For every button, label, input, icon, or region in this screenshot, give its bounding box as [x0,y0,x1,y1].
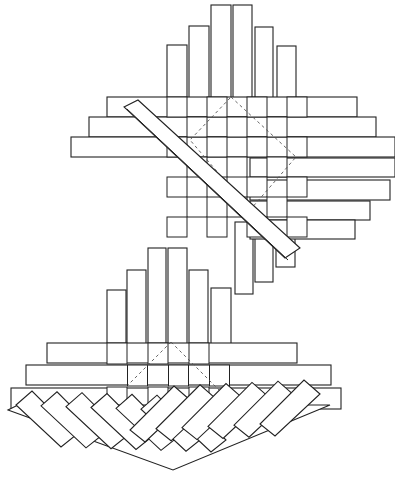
weave-cell [148,343,168,364]
horizontal-strip [71,137,395,157]
weave-cell [207,217,227,237]
weave-cell [287,137,307,157]
weave-cell [287,177,307,197]
basket-weave-diagram [0,0,395,481]
weave-cell [167,177,187,197]
lower-weave-illustration [8,248,341,470]
weave-cell [267,157,287,177]
weave-cell [107,343,127,364]
weave-cell [210,365,230,386]
vertical-strip [127,270,146,350]
weave-cell [247,137,267,157]
weave-cell [267,117,287,137]
weave-cell [169,365,189,386]
vertical-strip [211,288,231,350]
weave-cell [227,157,247,177]
weave-cell [267,197,287,217]
horizontal-strip [47,343,297,363]
upper-weave-illustration [71,5,395,294]
weave-cell [167,217,187,237]
weave-cell [207,137,227,157]
vertical-strip [189,270,208,350]
weave-cell [227,117,247,137]
weave-cell [287,97,307,117]
vertical-strip [168,248,187,350]
vertical-strip [107,290,126,350]
weave-cell [187,117,207,137]
weave-cell [207,97,227,117]
vertical-strip [148,248,166,350]
weave-cell [287,217,307,237]
weave-cell [247,177,267,197]
weave-cell [167,97,187,117]
weave-cell [189,343,209,364]
weave-cell [187,197,207,217]
